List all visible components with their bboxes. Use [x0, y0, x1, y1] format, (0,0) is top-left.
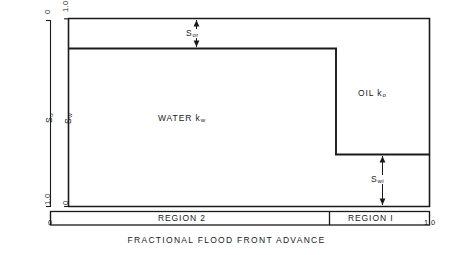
- oil-zone-label-sub: o: [383, 91, 387, 98]
- so-axis-tick-top: 0: [44, 9, 52, 14]
- sor-annotation-label: Sor: [184, 29, 200, 38]
- sor-label-base: S: [186, 28, 193, 38]
- sw-axis-title: Sw: [64, 113, 73, 124]
- sw-axis-title-base: S: [63, 118, 73, 124]
- so-axis-title: So: [45, 113, 54, 123]
- water-zone-label: WATER kw: [158, 114, 205, 123]
- x-axis-tick-left: 0: [48, 219, 53, 227]
- water-zone-label-sub: w: [201, 116, 206, 123]
- region-2-label: REGION 2: [158, 214, 206, 223]
- figure-caption: FRACTIONAL FLOOD FRONT ADVANCE: [0, 236, 453, 245]
- sor-arrow-head-bottom: [194, 41, 200, 47]
- swi-arrow-head-top: [380, 156, 386, 162]
- swi-label-sub: wi: [378, 177, 384, 184]
- x-axis-tick-right: 1.0: [424, 219, 436, 227]
- swi-label-base: S: [371, 174, 378, 184]
- so-axis-tick-bottom: 1.0: [44, 193, 52, 205]
- so-axis-title-base: S: [44, 117, 54, 123]
- region-1-label: REGION I: [348, 214, 393, 223]
- oil-zone-label: OIL ko: [358, 89, 386, 98]
- sw-axis-tick-top: 1.0: [62, 0, 70, 12]
- sw-axis-tick-bottom: 0: [62, 200, 70, 205]
- swi-annotation-label: Swi: [369, 175, 386, 184]
- sw-axis-title-sub: w: [66, 113, 73, 118]
- flood-front-saturation-diagram: 0 1.0 So 1.0 0 Sw WATER kw OIL ko Sor Sw…: [0, 0, 453, 255]
- so-axis-title-sub: o: [47, 113, 54, 117]
- swi-arrow-head-bottom: [380, 199, 386, 205]
- water-zone-label-base: WATER k: [158, 113, 201, 123]
- sor-arrow-head-top: [194, 20, 200, 26]
- oil-zone-label-base: OIL k: [358, 88, 383, 98]
- sor-label-sub: or: [193, 31, 199, 38]
